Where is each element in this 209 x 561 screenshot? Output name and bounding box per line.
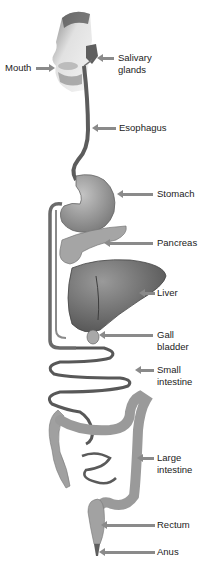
- label-mouth: Mouth: [5, 62, 31, 74]
- arrow-liver: [144, 292, 155, 295]
- arrow-large-intestine: [142, 457, 154, 460]
- label-small-intestine: Small intestine: [157, 364, 192, 388]
- label-pancreas: Pancreas: [157, 237, 197, 249]
- label-anus: Anus: [157, 546, 179, 558]
- label-gall-bladder: Gall bladder: [157, 329, 189, 353]
- arrow-gall-bladder: [104, 334, 153, 337]
- arrow-salivary-glands: [102, 57, 114, 60]
- label-salivary-glands: Salivary glands: [118, 52, 152, 76]
- label-rectum: Rectum: [157, 519, 190, 531]
- label-esophagus: Esophagus: [119, 122, 167, 134]
- label-liver: Liver: [157, 287, 178, 299]
- gall-bladder-shape: [87, 330, 99, 344]
- arrow-pancreas: [109, 242, 153, 245]
- label-large-intestine: Large intestine: [157, 452, 192, 476]
- liver-shape: [68, 260, 166, 332]
- anatomy-illustration: [0, 0, 209, 561]
- stomach-shape: [60, 175, 114, 233]
- arrow-rectum: [106, 524, 155, 527]
- arrow-anus: [104, 551, 155, 554]
- arrow-mouth: [36, 67, 50, 70]
- pancreas-shape: [60, 226, 127, 264]
- arrow-stomach: [122, 193, 153, 196]
- arrow-esophagus: [97, 127, 116, 130]
- arrow-small-intestine: [140, 369, 154, 372]
- digestive-system-diagram: Mouth Salivary glands Esophagus Stomach …: [0, 0, 209, 561]
- label-stomach: Stomach: [157, 188, 195, 200]
